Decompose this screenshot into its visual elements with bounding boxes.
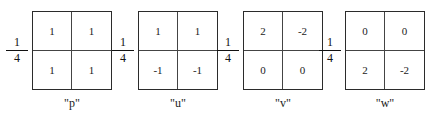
matrix-grid-w: 002-2 bbox=[345, 11, 425, 90]
matrix-cell: -1 bbox=[139, 51, 178, 90]
matrix-cell: 0 bbox=[346, 12, 385, 51]
matrix-cell: 0 bbox=[385, 12, 424, 51]
fraction-denominator: 4 bbox=[217, 51, 239, 65]
matrix-cell: 2 bbox=[346, 51, 385, 90]
fraction-denominator: 4 bbox=[319, 51, 341, 65]
matrix-grid-v: 2-200 bbox=[243, 11, 323, 90]
matrix-figure: 141111"p"1411-1-1"u"142-200"v"14002-2"w" bbox=[0, 0, 445, 122]
matrix-cell: 0 bbox=[283, 51, 322, 90]
fraction-denominator: 4 bbox=[112, 51, 134, 65]
fraction-numerator: 1 bbox=[6, 36, 28, 51]
matrix-caption-u: "u" bbox=[138, 96, 218, 111]
scalar-fraction-w: 14 bbox=[319, 36, 341, 64]
scalar-fraction-v: 14 bbox=[217, 36, 239, 64]
matrix-caption-p: "p" bbox=[32, 96, 112, 111]
matrix-caption-w: "w" bbox=[345, 96, 425, 111]
matrix-cell: 1 bbox=[139, 12, 178, 51]
matrix-cell: 1 bbox=[33, 12, 72, 51]
matrix-cell: 2 bbox=[244, 12, 283, 51]
matrix-cell: 1 bbox=[72, 12, 111, 51]
matrix-caption-v: "v" bbox=[243, 96, 323, 111]
matrix-cell: 1 bbox=[33, 51, 72, 90]
matrix-cell: 1 bbox=[178, 12, 217, 51]
scalar-fraction-u: 14 bbox=[112, 36, 134, 64]
matrix-cell: 1 bbox=[72, 51, 111, 90]
matrix-cell: -1 bbox=[178, 51, 217, 90]
matrix-grid-u: 11-1-1 bbox=[138, 11, 218, 90]
fraction-numerator: 1 bbox=[217, 36, 239, 51]
matrix-cell: 0 bbox=[244, 51, 283, 90]
matrix-cell: -2 bbox=[283, 12, 322, 51]
fraction-numerator: 1 bbox=[319, 36, 341, 51]
fraction-numerator: 1 bbox=[112, 36, 134, 51]
fraction-denominator: 4 bbox=[6, 51, 28, 65]
matrix-grid-p: 1111 bbox=[32, 11, 112, 90]
matrix-cell: -2 bbox=[385, 51, 424, 90]
scalar-fraction-p: 14 bbox=[6, 36, 28, 64]
